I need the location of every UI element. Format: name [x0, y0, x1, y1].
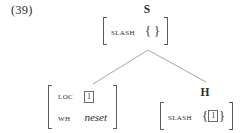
brace-open-icon: { — [145, 25, 151, 38]
edge-root-to-head-daughter — [148, 50, 206, 82]
avm-bracket-left — [48, 85, 53, 129]
example-number: (39) — [11, 3, 33, 18]
avm-row: SLASH { 1 } — [168, 110, 225, 123]
avm-attribute-slash: SLASH — [111, 27, 135, 37]
avm-attribute-slash: SLASH — [168, 112, 192, 122]
avm-value-slash-set: { 1 } — [202, 110, 225, 123]
brace-open-icon: { — [202, 110, 208, 123]
avm-value-wh-type: neset — [84, 112, 107, 123]
avm-value-slash-set: { } — [145, 25, 160, 38]
avm-bracket-right — [228, 102, 233, 130]
structure-sharing-tag: 1 — [84, 91, 94, 103]
avm-bracket-left — [103, 17, 108, 45]
avm-left-daughter: LOC 1 WH neset — [48, 85, 117, 129]
edge-root-to-left-daughter — [93, 50, 148, 84]
figure-39-syntax-tree: (39) S SLASH { } — [0, 0, 247, 133]
avm-body: SLASH { 1 } — [165, 102, 228, 130]
avm-head-daughter: SLASH { 1 } — [160, 102, 233, 130]
avm-attribute-loc: LOC — [58, 91, 73, 101]
avm-body: LOC 1 WH neset — [53, 85, 110, 129]
avm-row: LOC 1 — [58, 91, 107, 103]
avm-root: SLASH { } — [103, 17, 168, 45]
avm-row: WH neset — [58, 112, 107, 123]
structure-sharing-tag: 1 — [208, 110, 218, 122]
avm-value-loc-tag: 1 — [84, 91, 94, 103]
avm-bracket-right — [112, 85, 117, 129]
brace-close-icon: } — [219, 110, 225, 123]
brace-close-icon: } — [154, 25, 160, 38]
node-label-head-H: H — [197, 86, 213, 98]
avm-bracket-left — [160, 102, 165, 130]
avm-attribute-wh: WH — [58, 113, 70, 123]
avm-bracket-right — [163, 17, 168, 45]
avm-row: SLASH { } — [111, 25, 160, 38]
node-label-root-S: S — [138, 3, 156, 15]
avm-body: SLASH { } — [108, 17, 163, 45]
